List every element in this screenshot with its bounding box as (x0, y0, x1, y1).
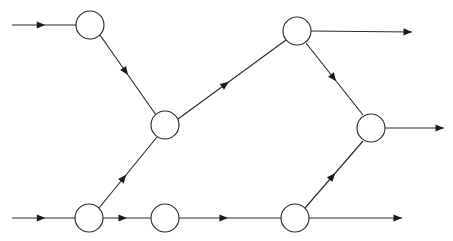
edge-bottom-left-to-center-head-icon (118, 175, 126, 184)
edge-bottom-left-to-center (99, 137, 157, 208)
output-arrow-right-head-icon (436, 124, 445, 131)
network-diagram (0, 0, 453, 241)
node-bottom-right[interactable] (281, 204, 309, 232)
edge-top-right-to-right-head-icon (328, 72, 336, 81)
edge-bottom-middle-to-bottom-right-head-icon (219, 214, 228, 221)
output-arrow-top-right-head-icon (403, 28, 412, 35)
node-right[interactable] (357, 114, 385, 142)
diagram-canvas (0, 0, 453, 241)
node-top-left[interactable] (76, 11, 104, 39)
node-bottom-middle[interactable] (151, 204, 179, 232)
edges-layer (99, 35, 363, 222)
node-bottom-left[interactable] (75, 204, 103, 232)
edge-center-to-top-right (178, 40, 286, 119)
node-top-right[interactable] (283, 17, 311, 45)
edge-center-to-top-right-head-icon (220, 82, 229, 90)
output-arrow-bottom-right-head-icon (394, 214, 403, 221)
input-arrow-bottom-head-icon (37, 214, 46, 221)
edge-bottom-left-to-bottom-middle-head-icon (119, 214, 128, 221)
node-center[interactable] (151, 111, 179, 139)
input-arrows-layer (12, 21, 76, 221)
edge-top-left-to-center-head-icon (120, 66, 128, 75)
input-arrow-top-head-icon (37, 21, 46, 28)
output-arrow-top-right (311, 31, 412, 32)
nodes-layer (75, 11, 385, 232)
